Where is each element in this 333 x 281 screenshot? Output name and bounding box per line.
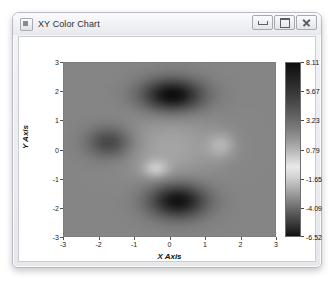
colorbar-tick-label: -1.65	[306, 175, 322, 182]
window-controls	[252, 15, 317, 30]
y-tick-label: 3	[41, 59, 59, 66]
heatmap-canvas	[64, 63, 276, 237]
x-tickmark	[276, 237, 277, 240]
minimize-icon	[258, 21, 268, 25]
y-tick-label: 2	[41, 88, 59, 95]
y-tickmark	[60, 237, 63, 238]
x-tickmark	[99, 237, 100, 240]
x-tick-label: 1	[203, 241, 207, 248]
y-tick-label: -2	[41, 204, 59, 211]
colorbar-tickmark	[301, 91, 304, 92]
y-tickmark	[60, 208, 63, 209]
x-tick-label: -1	[131, 241, 137, 248]
x-tickmark	[170, 237, 171, 240]
x-axis-label: X Axis	[63, 252, 276, 261]
x-tick-label: 2	[239, 241, 243, 248]
maximize-button[interactable]	[274, 15, 295, 30]
colorbar-tick-label: 3.23	[306, 117, 320, 124]
colorbar-tick-label: 0.79	[306, 146, 320, 153]
colorbar-tickmark	[301, 120, 304, 121]
colorbar-tick-label: 5.67	[306, 88, 320, 95]
title-bar[interactable]: XY Color Chart	[13, 13, 321, 35]
maximize-icon	[280, 18, 290, 28]
colorbar-tickmark	[301, 179, 304, 180]
y-tick-label: 0	[41, 146, 59, 153]
colorbar-tick-label: -4.09	[306, 204, 322, 211]
y-tickmark	[60, 91, 63, 92]
x-tick-label: 3	[274, 241, 278, 248]
x-tick-label: 0	[168, 241, 172, 248]
colorbar-tick-label: 8.11	[306, 59, 319, 66]
y-tick-label: -3	[41, 234, 59, 241]
x-tick-label: -2	[95, 241, 101, 248]
colorbar-tickmark	[301, 150, 304, 151]
x-tickmark	[205, 237, 206, 240]
y-tickmark	[60, 150, 63, 151]
colorbar-tickmark	[301, 236, 304, 237]
y-axis-label: Y Axis	[21, 125, 30, 149]
plot-area	[63, 62, 276, 237]
client-area: X Axis Y Axis -3-2-101233210-1-2-38.115.…	[18, 36, 316, 262]
window-title: XY Color Chart	[38, 19, 100, 29]
x-tick-label: -3	[60, 241, 66, 248]
colorbar-gradient	[285, 62, 301, 237]
y-tickmark	[60, 62, 63, 63]
y-tickmark	[60, 120, 63, 121]
colorbar-tickmark	[301, 208, 304, 209]
x-tickmark	[134, 237, 135, 240]
application-icon	[20, 18, 33, 31]
colorbar-tick-label: -6.52	[306, 234, 322, 241]
y-tick-label: -1	[41, 175, 59, 182]
close-button[interactable]	[296, 15, 317, 30]
y-tickmark	[60, 179, 63, 180]
colorbar-tickmark	[301, 62, 304, 63]
application-window: XY Color Chart X Axis Y Axis	[12, 12, 322, 268]
close-icon	[302, 18, 311, 27]
colorbar	[285, 62, 301, 237]
x-tickmark	[63, 237, 64, 240]
minimize-button[interactable]	[252, 15, 273, 30]
x-tickmark	[241, 237, 242, 240]
y-tick-label: 1	[41, 117, 59, 124]
chart-figure: X Axis Y Axis -3-2-101233210-1-2-38.115.…	[19, 37, 315, 261]
